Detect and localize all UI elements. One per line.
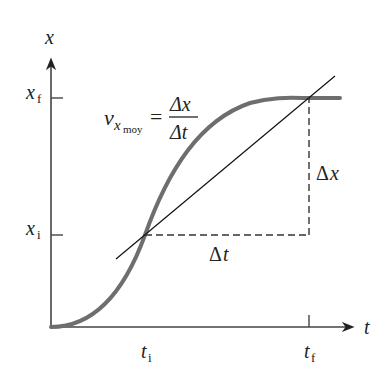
svg-text:=: = (150, 104, 162, 129)
svg-text:t: t (223, 243, 229, 265)
delta-x-label: Δ x (316, 162, 339, 184)
svg-text:i: i (37, 227, 41, 242)
svg-text:v: v (104, 105, 114, 130)
svg-text:Δx: Δx (169, 93, 191, 115)
t-final-label: t f (304, 340, 316, 365)
delta-t-label: Δ t (209, 243, 229, 265)
x-initial-label: x i (25, 217, 41, 242)
secant-line (116, 76, 335, 259)
vertical-axis-label: x (44, 26, 54, 48)
svg-text:moy: moy (123, 123, 143, 135)
svg-text:Δ: Δ (316, 162, 329, 184)
position-time-diagram: x t x f x i t i t f Δ x Δ t v x moy = Δ (0, 0, 384, 380)
svg-text:t: t (141, 340, 147, 362)
svg-text:i: i (148, 350, 152, 365)
x-final-label: x f (25, 81, 42, 106)
t-initial-label: t i (141, 340, 152, 365)
horizontal-axis-label: t (364, 316, 370, 338)
svg-text:x: x (113, 117, 121, 133)
svg-text:x: x (25, 217, 35, 239)
svg-text:x: x (25, 81, 35, 103)
svg-text:t: t (304, 340, 310, 362)
svg-text:Δt: Δt (169, 121, 188, 143)
position-curve (51, 98, 340, 327)
svg-text:x: x (329, 162, 339, 184)
svg-text:Δ: Δ (209, 243, 222, 265)
average-velocity-equation: v x moy = Δx Δt (104, 93, 198, 143)
svg-text:f: f (311, 350, 316, 365)
svg-text:f: f (37, 91, 42, 106)
